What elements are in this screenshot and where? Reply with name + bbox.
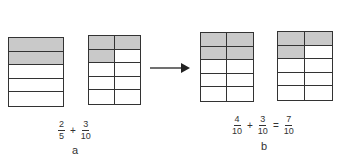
grid-cell bbox=[115, 77, 141, 91]
grid-cell bbox=[227, 74, 253, 88]
numerator: 2 bbox=[58, 120, 65, 131]
fraction: 410 bbox=[232, 115, 242, 136]
grid-cell bbox=[9, 38, 63, 52]
grid-cell bbox=[9, 52, 63, 66]
panel-label-b: b bbox=[261, 140, 267, 152]
grid-three-tenths-b bbox=[277, 31, 333, 101]
fraction: 310 bbox=[258, 115, 268, 136]
grid-cell bbox=[305, 59, 332, 73]
denominator: 10 bbox=[232, 126, 242, 136]
operator: + bbox=[247, 120, 253, 131]
grid-cell bbox=[9, 65, 63, 79]
grid-cell bbox=[89, 77, 115, 91]
operator: + bbox=[70, 125, 76, 136]
grid-three-tenths-a bbox=[88, 35, 141, 105]
grid-cell bbox=[115, 50, 141, 64]
grid-cell bbox=[9, 79, 63, 93]
fraction: 710 bbox=[284, 115, 294, 136]
grid-cell bbox=[305, 73, 332, 87]
grid-cell bbox=[227, 60, 253, 74]
grid-cell bbox=[227, 33, 253, 47]
grid-cell bbox=[201, 87, 227, 101]
denominator: 10 bbox=[284, 126, 294, 136]
grid-cell bbox=[201, 33, 227, 47]
equation-a: 25+310 bbox=[56, 120, 93, 141]
denominator: 5 bbox=[59, 131, 64, 141]
equation-b: 410+310=710 bbox=[230, 115, 296, 136]
grid-cell bbox=[115, 90, 141, 104]
grid-cell bbox=[89, 36, 115, 50]
grid-cell bbox=[9, 92, 63, 106]
grid-cell bbox=[89, 63, 115, 77]
grid-cell bbox=[305, 46, 332, 60]
numerator: 4 bbox=[234, 115, 241, 126]
grid-cell bbox=[305, 32, 332, 46]
fraction: 310 bbox=[81, 120, 91, 141]
grid-cell bbox=[89, 90, 115, 104]
grid-cell bbox=[278, 86, 305, 100]
arrow-right-icon bbox=[148, 62, 192, 74]
grid-cell bbox=[305, 86, 332, 100]
grid-cell bbox=[278, 46, 305, 60]
grid-cell bbox=[278, 32, 305, 46]
numerator: 3 bbox=[82, 120, 89, 131]
denominator: 10 bbox=[81, 131, 91, 141]
grid-cell bbox=[115, 63, 141, 77]
numerator: 3 bbox=[259, 115, 266, 126]
fraction: 25 bbox=[58, 120, 65, 141]
grid-cell bbox=[227, 47, 253, 61]
denominator: 10 bbox=[258, 126, 268, 136]
grid-cell bbox=[278, 59, 305, 73]
grid-four-tenths bbox=[200, 32, 254, 102]
grid-two-fifths bbox=[8, 37, 64, 107]
operator: = bbox=[273, 120, 279, 131]
grid-cell bbox=[201, 60, 227, 74]
grid-cell bbox=[227, 87, 253, 101]
grid-cell bbox=[278, 73, 305, 87]
numerator: 7 bbox=[285, 115, 292, 126]
grid-cell bbox=[201, 47, 227, 61]
grid-cell bbox=[201, 74, 227, 88]
panel-label-a: a bbox=[72, 144, 78, 156]
grid-cell bbox=[89, 50, 115, 64]
grid-cell bbox=[115, 36, 141, 50]
